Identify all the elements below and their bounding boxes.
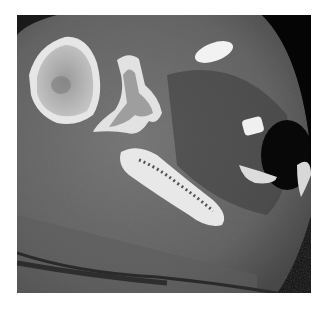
ct-scan-graphic [17, 15, 311, 293]
ct-scan-image [17, 15, 311, 293]
